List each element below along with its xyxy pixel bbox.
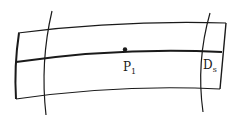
band-diagram: P1 Ds [0,0,244,117]
point-label-main: P [123,60,131,74]
band-right-end [220,23,226,89]
point-label: P1 [123,60,136,76]
band-left-end [15,33,19,99]
diagram-canvas: P1 Ds [0,0,244,117]
section-label-main: D [203,58,213,72]
left-cross-arc [44,11,52,115]
band-bottom-edge [16,88,220,99]
point-label-subscript: 1 [131,67,136,76]
section-label-subscript: s [213,65,217,74]
band-centerline [16,51,222,62]
section-label: Ds [203,58,217,74]
point-p1 [123,47,127,51]
